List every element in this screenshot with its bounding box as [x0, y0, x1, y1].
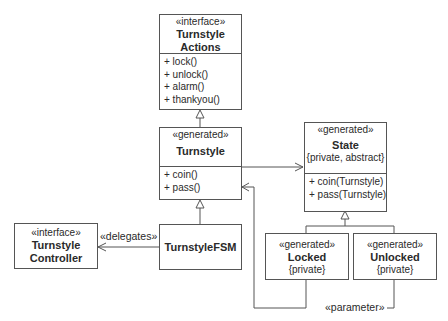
class-properties: {private} — [354, 264, 436, 276]
class-turnstyle-fsm[interactable]: TurnstyleFSM — [159, 224, 242, 270]
stereotype: «generated» — [354, 239, 436, 251]
operation: + thankyou() — [164, 94, 237, 107]
class-name: State — [305, 139, 386, 152]
class-name: Controller — [15, 252, 97, 265]
hollow-triangle-icon — [341, 211, 349, 219]
class-name: Turnstyle — [160, 145, 241, 158]
class-name: Locked — [266, 251, 348, 264]
operation: + coin(Turnstyle) — [309, 176, 382, 189]
class-state[interactable]: «generated» State {private, abstract} + … — [304, 122, 387, 212]
operation: + pass(Turnstyle) — [309, 189, 382, 202]
operations-compartment: + coin() + pass() — [160, 166, 241, 199]
class-turnstyle-controller[interactable]: «interface» Turnstyle Controller — [14, 223, 98, 269]
class-locked[interactable]: «generated» Locked {private} — [265, 233, 349, 280]
hollow-triangle-icon — [196, 110, 204, 118]
operation: + alarm() — [164, 81, 237, 94]
class-turnstyle-actions[interactable]: «interface» Turnstyle Actions + lock() +… — [159, 14, 242, 110]
class-turnstyle[interactable]: «generated» Turnstyle + coin() + pass() — [159, 127, 242, 200]
class-name: Turnstyle — [15, 239, 97, 252]
stereotype: «interface» — [160, 16, 241, 28]
hollow-triangle-icon — [196, 200, 204, 208]
delegates-label: «delegates» — [100, 230, 157, 242]
operation: + unlock() — [164, 69, 237, 82]
stereotype: «interface» — [15, 227, 97, 239]
operation: + coin() — [164, 169, 237, 182]
class-unlocked[interactable]: «generated» Unlocked {private} — [353, 233, 437, 280]
class-name: TurnstyleFSM — [160, 241, 241, 254]
parameter-label: «parameter» — [323, 301, 387, 313]
operations-compartment: + lock() + unlock() + alarm() + thankyou… — [160, 53, 241, 109]
stereotype: «generated» — [266, 239, 348, 251]
class-name: Turnstyle — [160, 28, 241, 41]
stereotype: «generated» — [305, 124, 386, 136]
class-name: Unlocked — [354, 251, 436, 264]
class-properties: {private} — [266, 264, 348, 276]
operation: + lock() — [164, 56, 237, 69]
class-properties: {private, abstract} — [305, 152, 386, 164]
operation: + pass() — [164, 182, 237, 195]
operations-compartment: + coin(Turnstyle) + pass(Turnstyle) — [305, 173, 386, 211]
stereotype: «generated» — [160, 129, 241, 141]
